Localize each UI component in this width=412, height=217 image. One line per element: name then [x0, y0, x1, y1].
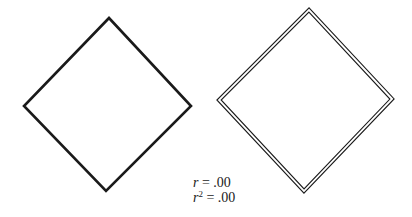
r-squared-row: r2 = .00	[193, 190, 235, 205]
r-squared-exponent: 2	[198, 189, 203, 199]
r-squared-value: = .00	[206, 190, 235, 205]
right-diamond-inner-line	[221, 12, 390, 189]
r-row: r = .00	[193, 175, 235, 190]
r-label: r	[193, 175, 198, 190]
right-diamond-double-line	[217, 8, 394, 193]
r-value: = .00	[202, 175, 231, 190]
correlation-stats: r = .00 r2 = .00	[193, 175, 235, 205]
figure-canvas: r = .00 r2 = .00	[0, 0, 412, 217]
right-diamond-outer-line	[217, 8, 394, 193]
left-diamond-single-line	[24, 18, 191, 191]
